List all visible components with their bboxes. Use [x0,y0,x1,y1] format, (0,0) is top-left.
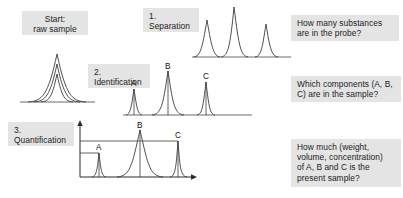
identification-peak-label-b: B [165,62,170,71]
identification-peak-label-c: C [203,72,209,81]
stage-label-start: Start: raw sample [22,11,88,35]
quantification-peak-c [170,141,187,177]
separation-peak-3 [255,24,278,57]
stage-label-separation: 1. Separation [143,8,199,32]
stage-label-quantification: 3. Quantification [8,122,74,146]
question-substances: How many substances are in the probe? [291,15,399,41]
raw-sample-peak-inner [41,74,73,102]
raw-sample-chart [20,54,95,102]
quantification-x-axis-arrow [191,174,197,179]
quantification-peak-label-c: C [175,131,181,140]
separation-peak-2 [221,7,248,57]
question-components: Which components (A, B, C) are in the sa… [291,76,401,102]
identification-peak-label-a: A [131,79,136,88]
separation-chart [192,7,291,57]
stage-label-identification: 2. Identification [88,64,150,88]
quantification-y-axis-arrow [77,120,82,126]
quantification-peak-label-b: B [137,121,142,130]
raw-sample-peak-middle [34,64,80,102]
raw-sample-peak-outer [28,54,86,102]
question-amount: How much (weight, volume, concentration)… [291,139,401,187]
quantification-peak-label-a: A [96,143,101,152]
